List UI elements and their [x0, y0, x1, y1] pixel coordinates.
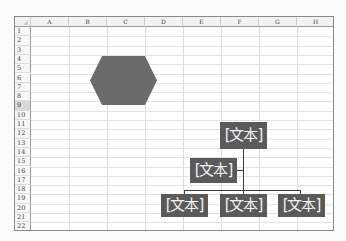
row-header-12[interactable]: 12 [15, 129, 31, 138]
row-gridline [31, 92, 333, 93]
hexagon-shape[interactable] [90, 56, 157, 105]
row-header-2[interactable]: 2 [15, 36, 31, 45]
row-gridline [31, 46, 333, 47]
org-chart-child-box-1[interactable]: [文本] [161, 194, 208, 217]
org-chart-top-box[interactable]: [文本] [220, 122, 267, 149]
row-header-20[interactable]: 20 [15, 204, 31, 213]
row-gridline [31, 129, 333, 130]
column-header-e[interactable]: E [183, 17, 221, 27]
row-header-13[interactable]: 13 [15, 139, 31, 148]
row-header-9[interactable]: 9 [15, 101, 31, 110]
row-gridline [31, 167, 333, 168]
row-header-8[interactable]: 8 [15, 92, 31, 101]
row-header-6[interactable]: 6 [15, 74, 31, 83]
column-header-g[interactable]: G [259, 17, 297, 27]
row-header-22[interactable]: 22 [15, 222, 31, 231]
select-all-corner[interactable] [15, 17, 31, 27]
row-gridline [31, 74, 333, 75]
row-header-17[interactable]: 17 [15, 176, 31, 185]
org-connector-assistant [237, 170, 244, 171]
row-gridline [31, 157, 333, 158]
row-gridline [31, 222, 333, 223]
row-header-7[interactable]: 7 [15, 83, 31, 92]
row-gridline [31, 176, 333, 177]
row-gridline [31, 101, 333, 102]
row-gridline [31, 139, 333, 140]
row-header-16[interactable]: 16 [15, 167, 31, 176]
org-chart-child-box-2[interactable]: [文本] [220, 194, 267, 217]
row-header-19[interactable]: 19 [15, 194, 31, 203]
row-gridline [31, 185, 333, 186]
row-header-15[interactable]: 15 [15, 157, 31, 166]
spreadsheet-grid[interactable]: A B C D E F G H 1 2 3 4 5 6 7 8 9 10 11 … [14, 16, 334, 231]
row-header-14[interactable]: 14 [15, 148, 31, 157]
org-chart-assistant-box[interactable]: [文本] [190, 158, 237, 183]
column-header-h[interactable]: H [297, 17, 334, 27]
row-gridline [31, 83, 333, 84]
org-connector-branch [184, 190, 301, 191]
row-header-1[interactable]: 1 [15, 27, 31, 36]
column-header-d[interactable]: D [145, 17, 183, 27]
org-connector-trunk [243, 149, 244, 194]
row-gridline [31, 120, 333, 121]
row-header-11[interactable]: 11 [15, 120, 31, 129]
row-header-5[interactable]: 5 [15, 64, 31, 73]
row-gridline [31, 64, 333, 65]
column-header-c[interactable]: C [107, 17, 145, 27]
column-header-b[interactable]: B [69, 17, 107, 27]
row-header-3[interactable]: 3 [15, 46, 31, 55]
row-gridline [31, 36, 333, 37]
row-gridline [31, 148, 333, 149]
row-header-4[interactable]: 4 [15, 55, 31, 64]
row-header-18[interactable]: 18 [15, 185, 31, 194]
row-header-10[interactable]: 10 [15, 111, 31, 120]
column-header-f[interactable]: F [221, 17, 259, 27]
org-chart-child-box-3[interactable]: [文本] [278, 194, 325, 217]
row-gridline [31, 111, 333, 112]
column-header-a[interactable]: A [31, 17, 69, 27]
row-header-21[interactable]: 21 [15, 213, 31, 222]
row-gridline [31, 55, 333, 56]
